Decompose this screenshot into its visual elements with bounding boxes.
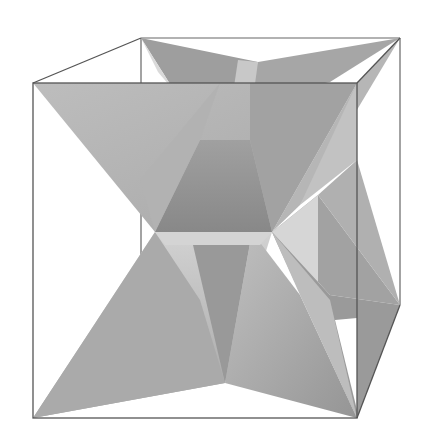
polyhedron-figure [0,0,428,448]
polyhedron-svg [0,0,428,448]
